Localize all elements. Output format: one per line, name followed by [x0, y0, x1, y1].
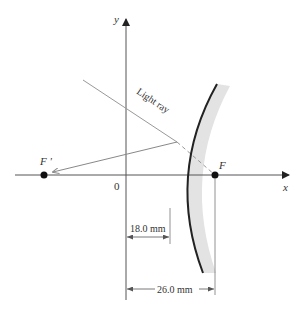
focal-point-dot	[212, 172, 219, 179]
y-axis-label: y	[113, 13, 119, 25]
reflected-light-ray	[53, 142, 177, 172]
light-ray-label: Light ray	[135, 86, 172, 116]
focal-point-label: F	[218, 159, 226, 171]
dimension-26mm-label: 26.0 mm	[157, 284, 193, 295]
x-axis-label: x	[282, 181, 288, 193]
dimension-18mm-label: 18.0 mm	[130, 223, 166, 234]
origin-label: 0	[114, 180, 120, 192]
virtual-focal-point-dot	[41, 172, 48, 179]
virtual-focal-point-label: F '	[39, 155, 52, 167]
mirror-ray-diagram: y x 0 F F ' Light ray 18.0 mm 26.0 mm	[0, 0, 304, 319]
